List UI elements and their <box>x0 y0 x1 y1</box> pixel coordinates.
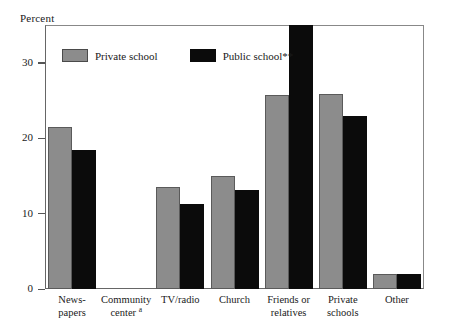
x-axis-label: Communitycenter a <box>99 294 153 319</box>
x-axis-label: Private schools <box>316 294 370 319</box>
x-axis-label: Church <box>207 294 261 307</box>
bar-public-school <box>343 116 367 289</box>
private-school-swatch <box>62 49 88 62</box>
bar-public-school <box>72 150 96 289</box>
x-axis-label: News- papers <box>45 294 99 319</box>
footnote-marker: a <box>139 304 142 313</box>
y-tick-label: 30 <box>22 55 33 70</box>
y-tick-mark <box>38 138 45 139</box>
y-tick-mark <box>38 62 45 63</box>
y-tick-label: 0 <box>28 281 34 296</box>
chart-legend: Private schoolPublic school** <box>62 49 293 62</box>
x-axis-label: Friends or relatives <box>262 294 316 319</box>
bar-public-school <box>397 274 421 289</box>
legend-entry: Public school** <box>190 49 294 62</box>
bar-private-school <box>156 187 180 289</box>
legend-label: Public school** <box>223 50 294 62</box>
legend-entry: Private school <box>62 49 158 62</box>
bar-private-school <box>265 95 289 289</box>
public-school-swatch <box>190 49 216 62</box>
bar-public-school <box>180 204 204 289</box>
y-tick-mark <box>38 213 45 214</box>
x-axis-label: TV/radio <box>153 294 207 307</box>
bar-private-school <box>48 127 72 289</box>
bar-private-school <box>373 274 397 289</box>
bar-private-school <box>319 94 343 289</box>
bar-private-school <box>211 176 235 289</box>
bar-public-school <box>235 190 259 289</box>
y-tick-label: 20 <box>22 130 33 145</box>
grouped-bar-chart: Percent 0102030 News- papersCommunitycen… <box>0 0 449 332</box>
legend-label: Private school <box>95 50 158 62</box>
bar-public-school <box>289 25 313 289</box>
x-axis-label: Other <box>370 294 424 307</box>
y-axis-title: Percent <box>20 12 54 24</box>
y-tick-label: 10 <box>22 206 33 221</box>
bars-layer <box>45 25 424 289</box>
y-tick-mark <box>38 289 45 290</box>
